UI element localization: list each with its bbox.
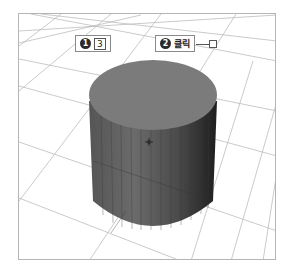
cylinder-top-face bbox=[89, 60, 217, 130]
callout-leader-line bbox=[196, 44, 210, 45]
3d-viewport[interactable] bbox=[18, 13, 276, 260]
step-number-badge: 2 bbox=[160, 38, 171, 49]
scene-canvas[interactable] bbox=[19, 14, 276, 260]
callout-step-2: 2 클릭 bbox=[155, 35, 195, 52]
callout-click-label: 클릭 bbox=[174, 37, 190, 50]
click-target-marker-icon bbox=[209, 40, 217, 48]
cylinder[interactable] bbox=[89, 60, 217, 233]
step-number-badge: 1 bbox=[80, 38, 91, 49]
key-3-icon: 3 bbox=[94, 38, 106, 50]
callout-step-1: 1 3 bbox=[75, 35, 111, 52]
